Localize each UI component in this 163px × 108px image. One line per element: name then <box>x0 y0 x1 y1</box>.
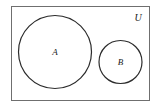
universe-rectangle <box>12 7 150 101</box>
venn-diagram-figure: U A B <box>0 0 163 108</box>
venn-diagram-canvas: U A B <box>0 0 163 108</box>
set-a-label: A <box>51 47 58 57</box>
set-b-label: B <box>118 57 124 67</box>
universe-label: U <box>134 12 142 23</box>
